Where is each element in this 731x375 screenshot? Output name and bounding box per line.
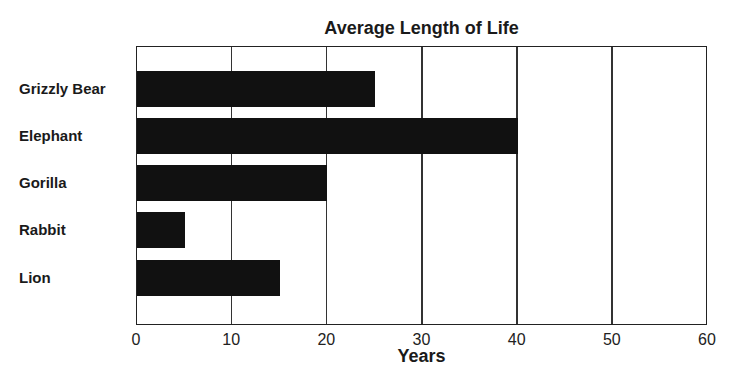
plot-area bbox=[136, 46, 707, 325]
category-label: Grizzly Bear bbox=[19, 80, 106, 97]
bar-gorilla bbox=[137, 165, 327, 201]
gridline bbox=[516, 47, 518, 324]
x-axis-label: Years bbox=[136, 346, 707, 367]
bar-elephant bbox=[137, 118, 518, 154]
chart-title: Average Length of Life bbox=[136, 18, 707, 39]
category-label: Lion bbox=[19, 269, 51, 286]
bar-lion bbox=[137, 260, 280, 296]
bar-rabbit bbox=[137, 212, 185, 248]
gridline bbox=[421, 47, 423, 324]
category-label: Gorilla bbox=[19, 174, 67, 191]
gridline bbox=[611, 47, 613, 324]
category-label: Rabbit bbox=[19, 221, 66, 238]
category-label: Elephant bbox=[19, 127, 82, 144]
bar-grizzly-bear bbox=[137, 71, 375, 107]
